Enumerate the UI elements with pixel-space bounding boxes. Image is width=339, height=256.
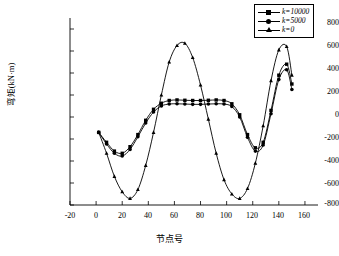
legend-item-k5000[interactable]: k=5000 [258,17,309,25]
legend-label-k5000: k=5000 [282,17,305,25]
series-k5000 [97,68,294,158]
legend-label-k10000: k=10000 [282,8,309,16]
legend-item-k10000[interactable]: k=10000 [258,8,309,16]
legend-marker-square-icon [258,8,280,16]
legend-label-k0: k=0 [282,26,294,34]
legend-item-k0[interactable]: k=0 [258,26,309,34]
legend-marker-triangle-icon [258,26,280,34]
plot-area [0,0,339,256]
chart-root: 弯矩(kN·m) 800 600 400 200 0 -200 -400 -60… [0,0,339,256]
series-lines [97,41,294,200]
series-k0 [97,41,294,200]
legend-marker-circle-icon [258,17,280,25]
legend: k=10000 k=5000 k=0 [254,4,314,38]
